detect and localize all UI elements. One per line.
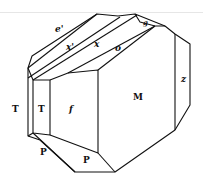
edge-left-front (28, 133, 33, 136)
label-T-outer: T (12, 104, 19, 114)
edge-upper-left (28, 68, 33, 80)
label-M: M (133, 92, 143, 102)
crystal-diagram: e' x' x o g z T T f M P P (0, 0, 203, 187)
edge-M-top (98, 26, 155, 70)
label-f: f (68, 104, 75, 114)
label-o: o (115, 43, 121, 53)
label-T-inner: T (38, 104, 45, 114)
label-g: g (143, 18, 148, 27)
label-x-prime: x' (65, 42, 74, 52)
edge-f-face (50, 70, 98, 153)
label-e-prime: e' (55, 24, 63, 34)
label-P-right: P (83, 155, 90, 165)
label-z: z (180, 74, 187, 84)
edge-band-1 (28, 14, 97, 68)
label-P-left: P (40, 147, 47, 157)
edge-band-3 (33, 15, 137, 80)
crystal-outline (28, 14, 190, 172)
edge-P-bottom (98, 153, 115, 172)
label-x: x (93, 39, 100, 49)
